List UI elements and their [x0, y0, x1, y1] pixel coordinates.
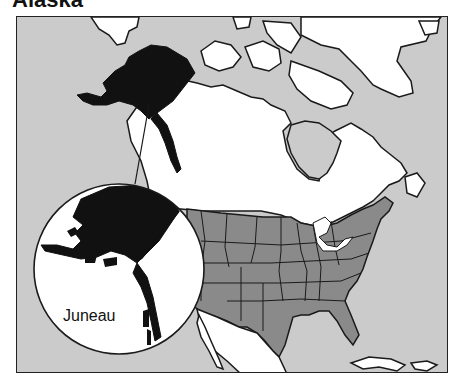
arctic-islands: [233, 17, 251, 29]
north-america-map: Juneau: [17, 17, 448, 373]
map-frame: Juneau: [16, 16, 448, 373]
alaska-inset: Juneau: [34, 184, 204, 354]
map-title: Alaska: [12, 0, 83, 13]
juneau-label: Juneau: [63, 307, 116, 324]
